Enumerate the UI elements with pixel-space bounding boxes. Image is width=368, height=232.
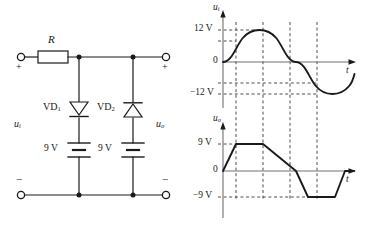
- input-voltage-label: ui: [14, 119, 21, 130]
- diode2-label-sub: 2: [111, 105, 114, 112]
- circuit-diagram: R + − + − VD1 VD2 9 V 9 V ui uo: [0, 0, 190, 232]
- terminal-in-top: [17, 53, 24, 60]
- node-dot-top-left: [77, 55, 82, 60]
- bottom-yaxis-arrow-icon: [220, 122, 225, 130]
- node-dot-top-right: [131, 55, 136, 60]
- resistor-label: R: [48, 34, 55, 45]
- terminal-out-plus-label: +: [162, 62, 168, 72]
- terminal-out-top: [162, 53, 169, 60]
- battery1-label: 9 V: [44, 144, 58, 154]
- diode1-label: VD1: [43, 102, 61, 113]
- top-xaxis-label: t: [346, 66, 349, 76]
- bottom-plot-axes: [223, 128, 350, 218]
- vertical-guides: [236, 22, 317, 200]
- resistor-body: [38, 51, 68, 63]
- top-yaxis-label-sub: i: [218, 5, 220, 12]
- bottom-yaxis-label-sub: o: [218, 116, 221, 123]
- top-yaxis-arrow-icon: [220, 10, 225, 18]
- bottom-ytick-9v: 9 V: [198, 138, 212, 148]
- output-voltage-sub: o: [161, 122, 164, 129]
- circuit-svg: [0, 0, 190, 232]
- node-dot-bottom-right: [131, 193, 136, 198]
- battery2-label: 9 V: [98, 144, 112, 154]
- bottom-ytick-0: 0: [213, 165, 218, 175]
- diode1-triangle-icon: [70, 102, 88, 115]
- top-ytick-neg12v: −12 V: [190, 88, 214, 98]
- bottom-ytick-neg9v: −9 V: [193, 191, 212, 201]
- junction-dots: [77, 55, 136, 198]
- diode1-label-text: VD: [43, 101, 57, 112]
- terminal-out-bottom: [162, 191, 169, 198]
- figure-root: R + − + − VD1 VD2 9 V 9 V ui uo: [0, 0, 368, 232]
- bottom-yaxis-label: uo: [213, 114, 221, 124]
- top-ytick-12v: 12 V: [194, 24, 213, 34]
- bottom-xaxis-label: t: [346, 175, 349, 185]
- waveform-charts: ui t 12 V 0 −12 V uo t 9 V 0 −9 V: [190, 0, 368, 232]
- top-xaxis-arrow-icon: [349, 59, 357, 64]
- diode2-label-text: VD: [97, 101, 111, 112]
- terminal-in-plus-label: +: [16, 62, 22, 72]
- terminals: [17, 53, 169, 198]
- diode2-triangle-icon: [124, 104, 142, 117]
- node-dot-bottom-left: [77, 193, 82, 198]
- terminal-in-bottom: [17, 191, 24, 198]
- terminal-in-minus-label: −: [16, 174, 22, 185]
- diode1-label-sub: 1: [57, 105, 60, 112]
- top-yaxis-label: ui: [213, 3, 220, 13]
- top-ytick-0: 0: [213, 56, 218, 66]
- input-voltage-sub: i: [19, 122, 21, 129]
- diode2-label: VD2: [97, 102, 115, 113]
- output-voltage-label: uo: [156, 119, 164, 130]
- terminal-out-minus-label: −: [162, 174, 168, 185]
